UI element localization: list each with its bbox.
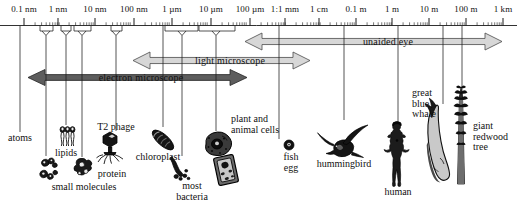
range-label-unaided-eye: unaided eye — [363, 37, 413, 47]
item-label-hummingbird: hummingbird — [317, 159, 371, 169]
drawing-animal-cell — [206, 132, 232, 156]
item-label-human: human — [384, 187, 411, 197]
item-label-fish-egg-line-0: fish — [284, 152, 299, 162]
scale-label-11: 10 m — [420, 5, 439, 14]
leader-vee-most-bacteria — [178, 31, 186, 36]
item-label-atoms: atoms — [8, 133, 32, 143]
item-label-giant-redwood-tree-line-2: tree — [473, 142, 488, 152]
leader-vee-t2-phage — [112, 31, 120, 36]
scale-label-1: 1 nm — [49, 5, 68, 14]
range-label-light-microscope: light microscope — [195, 56, 265, 66]
drawing-redwood-tree — [454, 86, 469, 185]
item-label-chloroplast: chloroplast — [136, 152, 180, 162]
drawing-small-molecules — [40, 158, 58, 179]
item-label-giant-redwood-tree-line-0: giant — [473, 121, 493, 131]
item-label-giant-redwood-tree-line-1: redwood — [473, 132, 508, 142]
leader-bracket-t2-phage — [111, 26, 122, 31]
scale-label-6: 100 µm — [236, 5, 265, 14]
drawing-t2-phage — [97, 132, 124, 164]
scale-label-10: 1 m — [385, 5, 399, 14]
item-label-great-blue-whale-line-1: blue — [412, 99, 429, 109]
item-label-lipids: lipids — [55, 148, 77, 158]
logarithmic-ruler — [0, 18, 517, 26]
leader-vee-protein — [78, 31, 86, 36]
scale-label-8: 1 cm — [310, 5, 328, 14]
item-label-great-blue-whale-line-2: whale — [412, 109, 436, 119]
scale-label-9: 0.1 m — [345, 5, 366, 14]
item-label-most-bacteria-line-1: bacteria — [176, 192, 208, 202]
drawing-human — [384, 122, 409, 187]
drawing-plant-cell — [213, 154, 238, 186]
figure-artwork — [0, 0, 517, 209]
item-label-small-molecules: small molecules — [52, 182, 117, 192]
drawing-chloroplast — [149, 127, 176, 153]
drawing-lipids — [60, 127, 75, 146]
scale-label-4: 1 µm — [162, 5, 181, 14]
scale-label-7: 1:1 mm — [271, 5, 299, 14]
leader-vee-lipids — [62, 31, 70, 36]
leader-bracket-protein — [74, 26, 91, 31]
leader-vee-small-molecules — [42, 31, 50, 36]
range-label-electron-microscope: electron microscope — [99, 73, 184, 83]
size-scale-figure: 0.1 nm1 nm10 nm100 nm1 µm10 µm100 µm1:1 … — [0, 0, 517, 209]
item-label-t2-phage: T2 phage — [97, 122, 135, 132]
item-label-plant-and-animal-cells-line-1: animal cells — [231, 125, 279, 135]
item-label-protein: protein — [98, 169, 126, 179]
scale-label-12: 100 m — [454, 5, 477, 14]
item-label-fish-egg-line-1: egg — [284, 163, 298, 173]
item-label-great-blue-whale-line-0: great — [412, 88, 432, 98]
scale-label-13: 1 km — [494, 5, 513, 14]
item-label-most-bacteria-line-0: most — [182, 181, 201, 191]
scale-label-2: 10 nm — [83, 5, 106, 14]
drawing-protein — [74, 158, 92, 175]
drawing-fish-egg — [284, 140, 294, 150]
leader-bracket-most-bacteria — [165, 26, 198, 31]
scale-label-3: 100 nm — [120, 5, 148, 14]
drawing-hummingbird — [318, 125, 369, 158]
leader-bracket-small-molecules — [40, 26, 53, 31]
item-label-plant-and-animal-cells-line-0: plant and — [231, 114, 268, 124]
leader-bracket-plant-and-animal-cells — [199, 26, 235, 31]
scale-label-0: 0.1 nm — [11, 5, 37, 14]
scale-label-5: 10 µm — [199, 5, 223, 14]
leader-vee-plant-and-animal-cells — [212, 31, 220, 36]
leader-bracket-lipids — [61, 26, 71, 31]
